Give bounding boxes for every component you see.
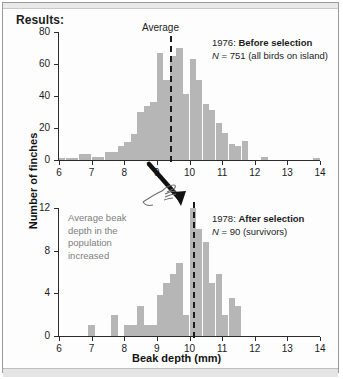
y-tick <box>54 208 58 209</box>
x-tick-label: 13 <box>277 343 297 354</box>
x-tick-label: 13 <box>277 167 297 178</box>
x-tick <box>157 161 158 165</box>
caption-n-prefix-1978: N <box>212 226 219 237</box>
histogram-bar <box>229 298 235 336</box>
x-tick-label: 12 <box>245 167 265 178</box>
histogram-bar <box>144 106 150 160</box>
y-tick <box>54 160 58 161</box>
x-tick <box>255 161 256 165</box>
x-tick <box>190 161 191 165</box>
histogram-bar <box>242 141 248 160</box>
x-tick <box>287 337 288 341</box>
frame-bottom-band <box>3 368 338 377</box>
x-tick-label: 7 <box>82 167 102 178</box>
histogram-bar <box>144 325 150 336</box>
histogram-bar <box>176 48 182 160</box>
x-tick-label: 10 <box>180 167 200 178</box>
y-tick-label: 4 <box>24 287 50 298</box>
x-tick <box>92 337 93 341</box>
y-tick <box>54 96 58 97</box>
y-tick-label: 12 <box>24 202 50 213</box>
y-tick-label: 0 <box>24 154 50 165</box>
y-tick-label: 0 <box>24 330 50 341</box>
histogram-bar <box>92 157 98 160</box>
y-tick-label: 20 <box>24 122 50 133</box>
histogram-bar <box>203 104 209 160</box>
histogram-bar <box>183 315 189 336</box>
figure-container: Results: Number of finches Average 02040… <box>0 0 343 379</box>
histogram-bar <box>98 157 104 160</box>
x-tick-label: 9 <box>147 167 167 178</box>
histogram-bar <box>222 315 228 336</box>
caption-n-prefix-1976: N <box>212 50 219 61</box>
histogram-bar <box>131 325 137 336</box>
x-tick <box>124 337 125 341</box>
x-tick <box>320 161 321 165</box>
histogram-bar <box>235 306 241 336</box>
x-tick-label: 6 <box>49 343 69 354</box>
page-title: Results: <box>16 13 64 27</box>
y-tick <box>54 32 58 33</box>
histogram-bar <box>72 158 78 160</box>
histogram-bar <box>157 295 163 336</box>
histogram-bar <box>124 325 130 336</box>
histogram-bar <box>209 283 215 336</box>
x-tick-label: 14 <box>310 343 330 354</box>
histogram-bar <box>170 274 176 336</box>
increase-note: Average beak depth in the population inc… <box>68 212 126 262</box>
histogram-bar <box>137 306 143 336</box>
average-label: Average <box>142 22 179 33</box>
histogram-bar <box>190 59 196 160</box>
x-tick <box>124 161 125 165</box>
x-tick-label: 14 <box>310 167 330 178</box>
histogram-bar <box>222 133 228 160</box>
histogram-bar <box>176 263 182 336</box>
histogram-bar <box>137 112 143 160</box>
frame-top-band <box>3 3 338 9</box>
y-tick <box>54 128 58 129</box>
caption-condition-1978: After selection <box>238 213 304 224</box>
histogram-bar <box>59 158 65 160</box>
caption-1978: 1978: After selection N = 90 (survivors) <box>212 212 304 238</box>
histogram-bar <box>131 134 137 160</box>
histogram-bar <box>66 158 72 160</box>
y-tick <box>54 251 58 252</box>
y-tick-label: 60 <box>24 58 50 69</box>
histogram-bar <box>150 102 156 160</box>
x-tick-label: 12 <box>245 343 265 354</box>
caption-n-value-1976: = 751 (all birds on island) <box>222 50 328 61</box>
histogram-bar <box>105 152 111 160</box>
x-tick <box>59 161 60 165</box>
histogram-bar <box>209 110 215 160</box>
histogram-bar <box>111 152 117 160</box>
x-tick <box>222 161 223 165</box>
histogram-bar <box>163 283 169 336</box>
histogram-bar <box>157 53 163 160</box>
x-tick-label: 8 <box>114 167 134 178</box>
y-tick <box>54 64 58 65</box>
y-tick <box>54 293 58 294</box>
y-tick <box>54 336 58 337</box>
caption-n-value-1978: = 90 (survivors) <box>222 226 288 237</box>
x-axis-title: Beak depth (mm) <box>132 352 221 364</box>
histogram-bar <box>85 154 91 160</box>
x-tick <box>59 337 60 341</box>
x-tick <box>287 161 288 165</box>
histogram-bar <box>79 154 85 160</box>
x-tick-label: 11 <box>212 167 232 178</box>
histogram-bar <box>196 229 202 336</box>
histogram-bar <box>124 142 130 160</box>
histogram-bar <box>229 144 235 160</box>
x-tick <box>320 337 321 341</box>
histogram-bar <box>150 325 156 336</box>
caption-1976: 1976: Before selection N = 751 (all bird… <box>212 36 328 62</box>
caption-year-1976: 1976: <box>212 37 236 48</box>
x-tick <box>190 337 191 341</box>
histogram-bar <box>216 274 222 336</box>
histogram-bar <box>235 146 241 160</box>
y-tick-label: 80 <box>24 26 50 37</box>
x-tick-label: 6 <box>49 167 69 178</box>
y-tick-label: 40 <box>24 90 50 101</box>
histogram-bar <box>261 157 267 160</box>
histogram-bar <box>111 315 117 336</box>
